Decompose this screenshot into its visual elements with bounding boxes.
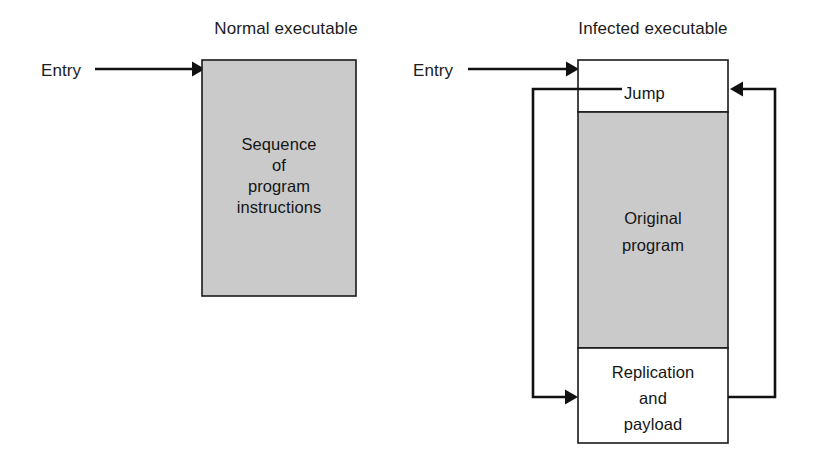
normal-box-line-2: of [272, 156, 286, 174]
payload-to-jump-return-arrow [728, 82, 775, 398]
infected-entry-label: Entry [413, 61, 454, 80]
original-program-line-1: Original [624, 209, 682, 227]
normal-executable-title: Normal executable [214, 19, 357, 38]
jump-label: Jump [624, 84, 665, 102]
diagram-canvas: Normal executable Entry Sequence of prog… [0, 0, 818, 460]
replication-payload-line-3: payload [624, 415, 683, 433]
normal-entry-label: Entry [41, 61, 82, 80]
original-program-line-2: program [622, 236, 684, 254]
normal-box-line-4: instructions [237, 198, 322, 216]
replication-payload-line-1: Replication [612, 363, 695, 381]
infected-executable-group: Infected executable Entry Jump Original … [413, 19, 775, 443]
normal-box-line-1: Sequence [241, 135, 316, 153]
original-program-section-box [578, 112, 728, 348]
normal-entry-arrow [95, 62, 205, 77]
normal-executable-group: Normal executable Entry Sequence of prog… [41, 19, 358, 296]
infected-entry-arrow [468, 62, 579, 77]
infected-executable-title: Infected executable [578, 19, 727, 38]
virus-infection-diagram: Normal executable Entry Sequence of prog… [0, 0, 818, 460]
normal-box-line-3: program [248, 177, 310, 195]
replication-payload-line-2: and [639, 389, 667, 407]
